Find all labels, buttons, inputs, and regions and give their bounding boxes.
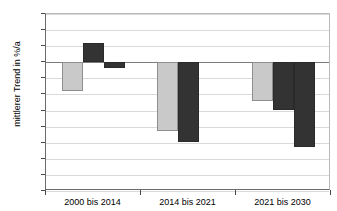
bar-series-3-1 <box>104 62 125 68</box>
y-axis-title: mittlerer Trend in %/a <box>12 9 26 159</box>
bar-series-2-3 <box>273 62 294 110</box>
bar-chart: mittlerer Trend in %/a 1.51.00.50.0-0.5-… <box>0 0 337 211</box>
bar-series-2-1 <box>83 43 104 62</box>
bar-series-1-1 <box>62 62 83 91</box>
gridline <box>46 175 329 176</box>
plot-area <box>45 13 330 190</box>
gridline <box>46 159 329 160</box>
x-axis-category-label: 2021 bis 2030 <box>235 197 330 207</box>
gridline <box>46 191 329 192</box>
bar-series-1-3 <box>252 62 273 101</box>
x-axis-tick-mark <box>330 190 331 195</box>
x-axis-tick-mark <box>235 190 236 195</box>
gridline <box>46 30 329 31</box>
bar-series-2-2 <box>178 62 199 142</box>
bar-series-3-3 <box>294 62 315 147</box>
gridline <box>46 143 329 144</box>
bar-series-1-2 <box>157 62 178 131</box>
gridline <box>46 14 329 15</box>
x-axis-category-label: 2014 bis 2021 <box>140 197 235 207</box>
x-axis-category-label: 2000 bis 2014 <box>45 197 140 207</box>
x-axis-tick-mark <box>140 190 141 195</box>
x-axis-tick-mark <box>45 190 46 195</box>
